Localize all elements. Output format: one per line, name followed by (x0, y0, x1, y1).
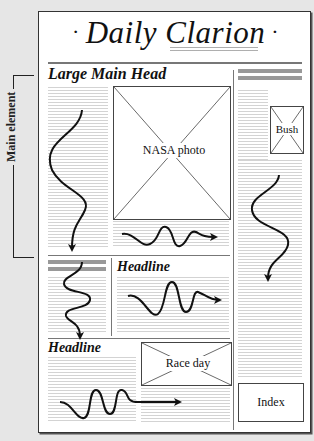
masthead: ·Daily Clarion· (48, 12, 303, 52)
masthead-ornament-right: · (271, 19, 279, 44)
secondary-column-divider (111, 258, 112, 336)
main-element-label: Main element (4, 89, 19, 165)
secondary-right-text (117, 277, 229, 332)
right-column-divider (233, 70, 234, 430)
index-box: Index (238, 383, 304, 422)
main-photo-cutline (113, 221, 229, 247)
section-rule-1 (48, 255, 230, 256)
masthead-title: Daily Clarion (86, 15, 266, 50)
nasa-photo-caption: NASA photo (137, 143, 211, 158)
masthead-rule (48, 62, 302, 64)
race-day-photo: Race day (141, 342, 232, 386)
main-headline: Large Main Head (48, 66, 166, 82)
secondary-left-text (48, 277, 106, 332)
nasa-photo: NASA photo (113, 86, 231, 220)
masthead-tagline (170, 47, 258, 52)
secondary-left-bars (48, 260, 106, 274)
bush-photo-caption: Bush (271, 123, 303, 135)
bush-photo: Bush (270, 106, 304, 154)
sidebar-text-upper (238, 90, 268, 160)
race-day-caption: Race day (159, 356, 217, 371)
race-day-cutline (141, 388, 230, 422)
section-rule-2 (48, 338, 230, 339)
masthead-ornament-left: · (72, 19, 80, 44)
bottom-headline: Headline (48, 340, 101, 356)
secondary-headline: Headline (117, 259, 170, 275)
sidebar-text-lower (238, 160, 302, 378)
bottom-story-text (48, 357, 136, 422)
main-story-text (48, 87, 108, 247)
sidebar-head-bars (238, 69, 302, 83)
index-label: Index (257, 395, 284, 409)
